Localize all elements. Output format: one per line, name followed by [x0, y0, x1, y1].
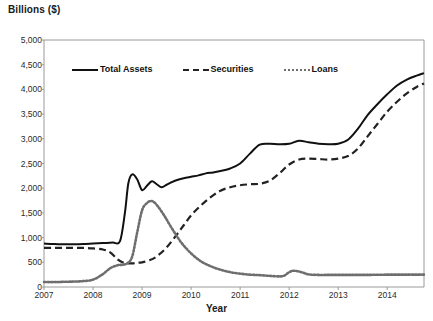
legend-item-label: Loans — [312, 64, 339, 74]
series-line-loans — [44, 201, 424, 282]
x-axis-tick-label: 2007 — [35, 291, 54, 300]
x-axis-tick-label: 2008 — [84, 291, 103, 300]
chart-legend: Total AssetsSecuritiesLoans — [72, 64, 338, 74]
legend-line-solid-icon — [72, 64, 98, 74]
x-axis-tick-label: 2011 — [231, 291, 249, 300]
x-axis-title: Year — [0, 303, 433, 314]
chart-plot-area — [0, 0, 433, 321]
legend-item-total-assets[interactable]: Total Assets — [72, 64, 153, 74]
legend-line-dotted-icon — [284, 64, 310, 74]
x-axis-tick-label: 2009 — [133, 291, 152, 300]
x-axis-tick-label: 2010 — [182, 291, 201, 300]
legend-item-label: Securities — [211, 64, 254, 74]
x-axis-tick-label: 2012 — [280, 291, 299, 300]
series-line-total-assets — [44, 73, 424, 244]
legend-item-label: Total Assets — [100, 64, 153, 74]
legend-item-securities[interactable]: Securities — [183, 64, 254, 74]
legend-line-dashed-icon — [183, 64, 209, 74]
data-series-layer — [44, 73, 424, 282]
legend-item-loans[interactable]: Loans — [284, 64, 339, 74]
x-axis-tick-label: 2013 — [329, 291, 348, 300]
series-line-securities — [44, 83, 424, 263]
x-axis-tick-label: 2014 — [378, 291, 397, 300]
